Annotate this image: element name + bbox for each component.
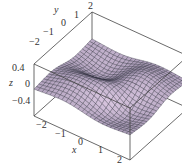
y-axis-label: y <box>54 5 58 15</box>
z-tick-label: −0.4 <box>12 96 30 106</box>
x-axis-label: x <box>72 145 76 155</box>
z-tick-label: 0 <box>25 79 30 89</box>
y-tick-label: 2 <box>88 1 93 11</box>
z-tick-label: 0.4 <box>12 63 25 73</box>
x-tick-label: 0 <box>78 137 83 147</box>
x-tick-label: −1 <box>55 129 66 139</box>
y-tick-label: 1 <box>74 10 79 20</box>
z-axis-label: z <box>9 78 13 88</box>
y-tick-label: −1 <box>43 27 54 37</box>
y-tick-label: −2 <box>29 37 40 47</box>
x-tick-label: 1 <box>98 145 103 155</box>
surface-mesh <box>34 39 182 135</box>
x-tick-label: −2 <box>36 120 47 130</box>
y-tick-label: 0 <box>61 18 66 28</box>
x-tick-label: 2 <box>117 155 122 165</box>
